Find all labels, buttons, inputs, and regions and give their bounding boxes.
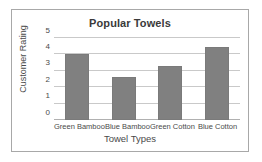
x-axis-tick-label: Green Bamboo [54, 122, 105, 131]
bars-group [54, 38, 240, 120]
bar [205, 47, 229, 120]
x-axis-tick-label: Blue Bamboo [105, 122, 150, 131]
y-axis-tick-label: 2 [46, 76, 50, 84]
x-axis-tick-label: Green Cotton [150, 122, 195, 131]
chart-frame: Popular Towels Customer Rating 012345 Gr… [11, 9, 249, 152]
y-axis-title: Customer Rating [18, 19, 28, 99]
bar-slot [101, 38, 148, 120]
y-axis-tick-label: 1 [46, 92, 50, 100]
y-axis-tick-label: 0 [46, 109, 50, 117]
x-axis-tick-labels: Green BambooBlue BambooGreen CottonBlue … [54, 122, 240, 131]
y-axis-tick-label: 5 [46, 27, 50, 35]
y-axis-tick-label: 3 [46, 59, 50, 67]
bar [112, 77, 136, 120]
bar-slot [194, 38, 241, 120]
bar [65, 54, 89, 120]
x-axis-title: Towel Types [12, 133, 248, 144]
bar-slot [54, 38, 101, 120]
bar-slot [147, 38, 194, 120]
x-axis-tick-label: Blue Cotton [195, 122, 240, 131]
bar [158, 66, 182, 120]
y-axis-tick-label: 4 [46, 43, 50, 51]
plot-area: 012345 [54, 38, 240, 120]
